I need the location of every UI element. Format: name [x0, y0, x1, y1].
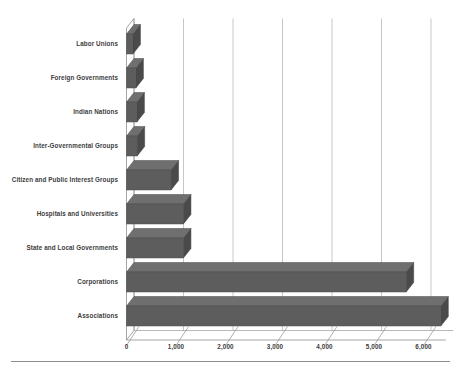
bar-front-face [127, 170, 172, 190]
bar-top-face [127, 195, 191, 205]
value-tick-label: 1,000 [168, 343, 184, 351]
value-tick-label: 5,000 [366, 343, 382, 351]
bar-front-face [127, 204, 184, 224]
value-axis-labels: 01,0002,0003,0004,0005,0006,000 [0, 343, 459, 357]
bar-top-face [127, 229, 191, 239]
value-tick-label: 0 [125, 343, 129, 351]
bar-front-face [127, 136, 138, 156]
plot-svg [0, 0, 459, 370]
bar-front-face [127, 272, 407, 292]
value-tick-label: 4,000 [316, 343, 332, 351]
bar-1 [127, 59, 144, 89]
bar-top-face [127, 161, 179, 171]
bar-front-face [127, 68, 136, 88]
bar-2 [127, 93, 145, 123]
bar-chart: Labor UnionsForeign GovernmentsIndian Na… [0, 0, 459, 370]
bar-front-face [127, 102, 137, 122]
bar-3 [127, 127, 145, 157]
bar-front-face [127, 306, 441, 326]
bar-top-face [127, 297, 449, 307]
bar-0 [127, 25, 141, 55]
bar-front-face [127, 34, 133, 54]
bar-5 [127, 195, 191, 225]
value-tick-label: 3,000 [267, 343, 283, 351]
bar-top-face [127, 263, 414, 273]
bottom-divider [11, 361, 450, 362]
value-tick-label: 6,000 [415, 343, 431, 351]
plot-area [0, 0, 459, 370]
bar-series [127, 25, 449, 327]
bar-8 [127, 297, 449, 327]
bar-7 [127, 263, 414, 293]
bar-4 [127, 161, 179, 191]
bar-front-face [127, 238, 184, 258]
value-tick-label: 2,000 [217, 343, 233, 351]
bar-6 [127, 229, 191, 259]
